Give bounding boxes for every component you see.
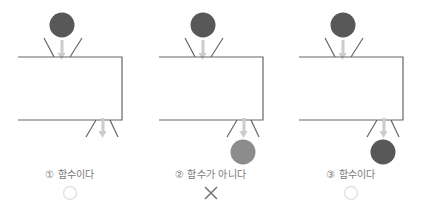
machine-graphic-3 [281, 0, 421, 165]
verdict-mark-3 [281, 183, 421, 207]
machine-graphic-2 [141, 0, 281, 165]
panel-caption-1: ① 함수이다 [0, 168, 140, 182]
output-ball [371, 140, 396, 165]
input-ball [50, 13, 75, 38]
function-machine-figure: ① 함수이다 ② 함수가 아니다 [0, 0, 421, 220]
panel-3: ③ 함수이다 [281, 0, 421, 220]
machine-body-outline [299, 38, 403, 137]
panel-caption-2: ② 함수가 아니다 [141, 168, 281, 182]
output-arrow-icon [239, 118, 247, 138]
output-ball [230, 140, 255, 165]
output-arrow-icon [99, 118, 107, 138]
input-ball [190, 13, 215, 38]
cross-mark-icon [201, 183, 221, 203]
machine-graphic-1 [0, 0, 140, 165]
verdict-mark-2 [141, 183, 281, 207]
output-arrow-icon [380, 118, 388, 138]
machine-body-outline [18, 38, 122, 137]
panel-caption-3: ③ 함수이다 [281, 168, 421, 182]
circle-mark-icon [341, 183, 361, 203]
verdict-mark-1 [0, 183, 140, 207]
machine-body-outline [159, 38, 263, 137]
panel-1: ① 함수이다 [0, 0, 140, 220]
input-ball [331, 13, 356, 38]
circle-mark-icon [60, 183, 80, 203]
panel-2: ② 함수가 아니다 [141, 0, 281, 220]
